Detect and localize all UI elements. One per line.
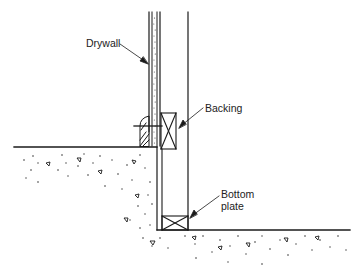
backing-label: Backing xyxy=(205,102,242,114)
concrete-aggregate xyxy=(23,153,346,265)
wood-block xyxy=(134,116,162,146)
drywall-label: Drywall xyxy=(86,37,120,49)
bottom-plate-label-line1: Bottom xyxy=(221,188,254,200)
bottom-plate xyxy=(162,216,188,230)
wall-section-diagram xyxy=(0,0,362,276)
backing-block xyxy=(161,113,176,149)
bottom-plate-label-line2: plate xyxy=(221,200,244,212)
concrete-stones xyxy=(46,158,319,250)
leader-lines xyxy=(120,44,219,218)
